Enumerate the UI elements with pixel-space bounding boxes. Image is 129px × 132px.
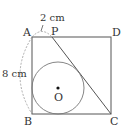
label-b: B xyxy=(24,115,32,128)
dimension-arc-ap xyxy=(32,32,52,38)
dimension-label-ab: 8 cm xyxy=(2,68,27,79)
label-o: O xyxy=(54,91,63,104)
center-point-o xyxy=(56,86,59,89)
label-c: C xyxy=(110,115,118,128)
label-d: D xyxy=(112,26,121,39)
dimension-label-ap: 2 cm xyxy=(40,12,65,23)
label-a: A xyxy=(22,26,32,39)
geometry-diagram: A P D B C O 2 cm 8 cm xyxy=(0,0,129,132)
dimension-leader-ap xyxy=(41,25,43,31)
label-p: P xyxy=(51,25,59,38)
square-abcd xyxy=(32,37,111,114)
